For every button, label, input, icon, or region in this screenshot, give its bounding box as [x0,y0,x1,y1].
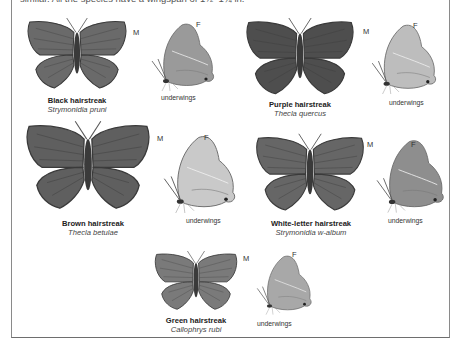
butterfly-underside-icon [148,133,240,213]
underwings-label: underwings [389,99,424,106]
species-caption: Purple hairstreakThecla quercus [240,100,360,118]
species-caption: Brown hairstreakThecla betulae [33,219,153,237]
underwings-label: underwings [388,217,423,224]
latin-name: Callophrys rubi [136,325,256,334]
latin-name: Strymonidia pruni [17,105,137,114]
latin-name: Thecla betulae [33,228,153,237]
butterfly-upperside-icon [254,133,366,213]
latin-name: Strymonidia w-album [251,228,371,237]
species-caption: White-letter hairstreakStrymonidia w-alb… [251,219,371,237]
butterfly-underside-icon [245,250,315,318]
butterfly-upperside-icon [152,251,240,311]
latin-name: Thecla quercus [240,109,360,118]
female-label: F [292,250,297,259]
common-name: White-letter hairstreak [251,219,371,228]
underwings-label: underwings [257,320,292,327]
butterfly-upperside-icon [24,117,152,215]
butterfly-upperside-icon [22,18,132,90]
butterfly-underside-icon [362,137,448,213]
butterfly-upperside-icon [241,18,359,96]
female-label: F [204,133,209,142]
female-label: F [196,20,201,29]
underwings-label: underwings [186,217,221,224]
male-label: M [367,140,373,149]
male-label: M [133,28,139,37]
male-label: M [243,254,249,263]
female-label: F [411,140,416,149]
female-label: F [413,21,418,30]
common-name: Purple hairstreak [240,100,360,109]
male-label: M [363,27,369,36]
underwings-label: underwings [161,94,196,101]
male-label: M [157,134,163,143]
common-name: Black hairstreak [17,96,137,105]
species-caption: Green hairstreakCallophrys rubi [136,316,256,334]
common-name: Green hairstreak [136,316,256,325]
species-caption: Black hairstreakStrymonidia pruni [17,96,137,114]
butterfly-underside-icon [138,20,218,92]
common-name: Brown hairstreak [33,219,153,228]
